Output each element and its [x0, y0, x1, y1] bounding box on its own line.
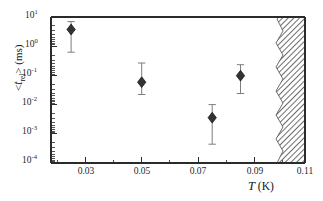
x-tick-label-4: 0.11: [289, 167, 321, 177]
axes-frame: [51, 17, 305, 163]
y-axis-subscript: rel: [18, 74, 27, 82]
x-axis-unit: (K): [258, 180, 274, 192]
plot-canvas: [0, 0, 323, 201]
y-tick-label-10e0: 100: [25, 40, 38, 50]
y-axis-major-ticks: [51, 17, 57, 163]
x-tick-label-1: 0.05: [126, 167, 158, 177]
data-point: [138, 63, 146, 95]
x-tick-label-0: 0.03: [70, 167, 102, 177]
y-tick-label-10e-3: 10-3: [22, 127, 37, 137]
y-tick-label-10e1: 101: [25, 11, 38, 21]
y-axis-symbol: t: [12, 82, 24, 85]
x-tick-label-2: 0.07: [182, 167, 214, 177]
y-axis-title: <trel> (ms): [13, 13, 25, 123]
x-axis-title: T (K): [248, 180, 274, 193]
x-tick-label-3: 0.09: [239, 167, 271, 177]
x-axis-symbol: T: [248, 179, 255, 193]
figure-panel: 101 100 10-1 10-2 10-3 10-4 0.03 0.05 0.…: [0, 0, 323, 201]
y-axis-close-unit: > (ms): [12, 45, 24, 74]
y-tick-label-10e-4: 10-4: [22, 156, 37, 166]
data-point: [67, 22, 75, 53]
y-axis-open-bracket: <: [12, 85, 24, 91]
x-axis-major-ticks: [85, 157, 305, 163]
hatched-region: [276, 17, 305, 163]
data-point: [236, 65, 244, 94]
data-point: [208, 105, 216, 145]
